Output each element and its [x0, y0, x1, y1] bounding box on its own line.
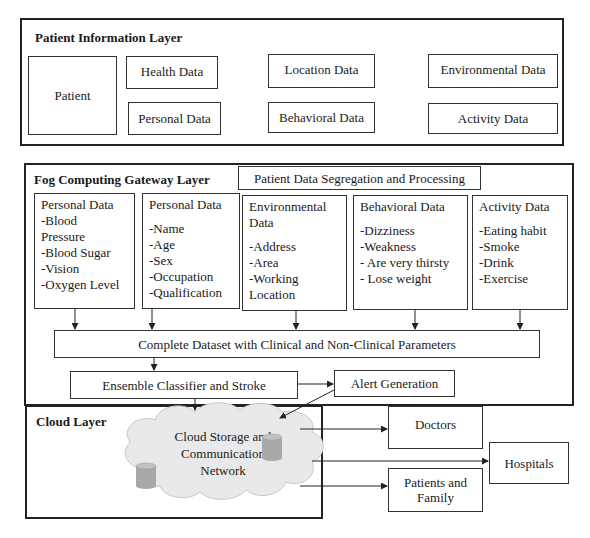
database-icon	[136, 463, 156, 489]
diagram-connectors: Cloud Storage and Communication Network	[0, 0, 590, 538]
cloud-label-2: Communication	[181, 446, 265, 461]
cloud-label-3: Network	[200, 463, 246, 478]
database-icon	[262, 434, 282, 461]
cloud-label-1: Cloud Storage and	[175, 429, 272, 444]
